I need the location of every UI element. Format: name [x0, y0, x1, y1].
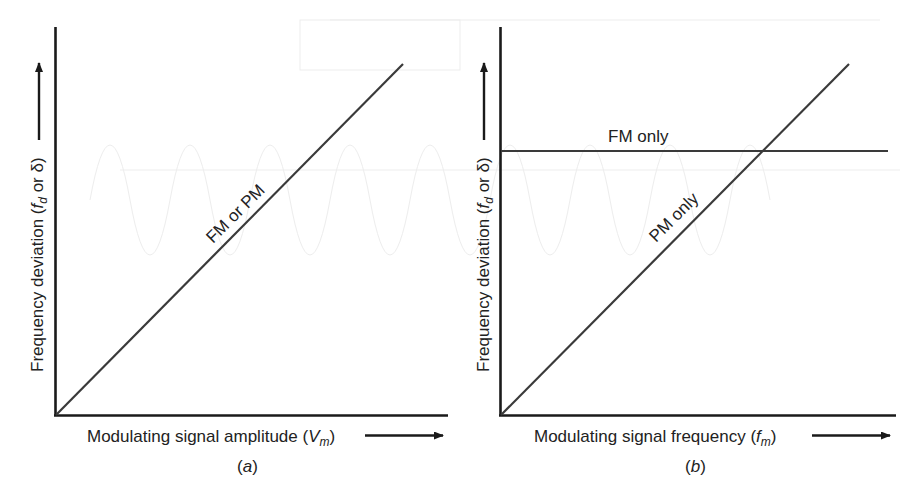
panel-b-pm-only-label: PM only — [645, 189, 702, 246]
panel-b: FM only PM only Frequency deviation (fd … — [474, 27, 896, 476]
panel-b-fm-only-label: FM only — [608, 127, 669, 146]
panel-b-caption: (b) — [685, 457, 706, 476]
panel-a-fm-or-pm-line — [56, 64, 403, 415]
panel-a-caption: (a) — [237, 457, 258, 476]
figure-canvas: FM or PM Frequency deviation (fd or δ) M… — [0, 0, 921, 496]
panel-b-pm-only-line — [501, 64, 849, 415]
bleed-through-background — [90, 20, 900, 255]
panel-b-x-axis-label: Modulating signal frequency (fm) — [534, 427, 776, 449]
panel-a-x-axis-label: Modulating signal amplitude (Vm) — [87, 427, 335, 449]
panel-b-y-axis-label: Frequency deviation (fd or δ) — [474, 157, 496, 372]
panel-a-y-axis-label: Frequency deviation (fd or δ) — [28, 157, 50, 372]
